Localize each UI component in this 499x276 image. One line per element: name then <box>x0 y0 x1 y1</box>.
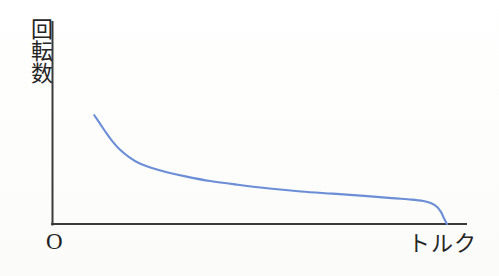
torque-speed-curve <box>94 115 447 224</box>
chart-figure: 回転数 トルク O <box>0 0 499 276</box>
x-axis-label: トルク <box>408 233 477 255</box>
origin-label: O <box>46 230 63 253</box>
y-axis-label: 回転数 <box>20 18 50 84</box>
